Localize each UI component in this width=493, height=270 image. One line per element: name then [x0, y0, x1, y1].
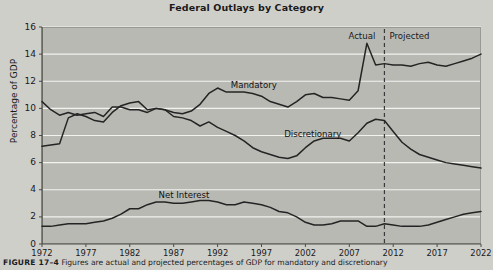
y-tick-label: 4	[8, 185, 36, 194]
x-tick-label: 2012	[373, 249, 413, 257]
y-tick-label: 10	[8, 104, 36, 113]
chart-title: Federal Outlays by Category	[0, 2, 493, 13]
x-tick-label: 2002	[285, 249, 325, 257]
figure-caption: FIGURE 17–4 Figures are actual and proje…	[3, 258, 491, 270]
y-tick-label: 12	[8, 77, 36, 86]
x-tick-label: 2017	[417, 249, 457, 257]
caption-text: Figures are actual and projected percent…	[61, 258, 387, 267]
y-tick-label: 6	[8, 158, 36, 167]
x-tick-label: 2007	[329, 249, 369, 257]
y-tick-label: 8	[8, 131, 36, 140]
actual-label: Actual	[348, 31, 375, 41]
figure-container: Federal Outlays by Category Percentage o…	[0, 0, 493, 270]
x-tick-label: 1972	[22, 249, 62, 257]
x-tick-label: 2022	[461, 249, 493, 257]
y-tick-label: 14	[8, 50, 36, 59]
series-label-discretionary: Discretionary	[284, 129, 341, 139]
caption-label: FIGURE 17–4	[3, 258, 59, 267]
series-label-net-interest: Net Interest	[158, 190, 209, 200]
x-tick-label: 1977	[66, 249, 106, 257]
projected-label: Projected	[389, 31, 429, 41]
y-axis-label: Percentage of GDP	[9, 41, 19, 161]
x-tick-label: 1997	[242, 249, 282, 257]
y-tick-label: 16	[8, 23, 36, 32]
x-tick-label: 1987	[154, 249, 194, 257]
x-tick-label: 1992	[198, 249, 238, 257]
x-tick-label: 1982	[110, 249, 150, 257]
y-tick-label: 2	[8, 212, 36, 221]
series-label-mandatory: Mandatory	[231, 80, 277, 90]
